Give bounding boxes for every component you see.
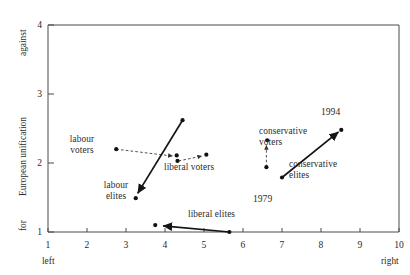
label-year-1979: 1979 — [253, 193, 272, 204]
data-point — [280, 175, 284, 179]
y-axis-high-label: against — [18, 29, 28, 56]
data-point — [264, 165, 268, 169]
chart-container: 123456789101234 against European unifica… — [0, 0, 410, 275]
y-tick-label: 2 — [26, 157, 42, 168]
y-axis-title: European unification — [18, 117, 28, 196]
y-tick-label: 3 — [26, 88, 42, 99]
trajectory-liberal-elites — [163, 226, 229, 232]
annotation-liberal-voters: liberal voters — [164, 162, 214, 173]
data-point — [339, 128, 343, 132]
annotation-conservative-voters: conservative voters — [259, 126, 307, 148]
data-point — [204, 153, 208, 157]
annotation-liberal-elites: liberal elites — [188, 209, 235, 220]
data-point — [227, 230, 231, 234]
y-tick-label: 4 — [26, 19, 42, 30]
data-point — [180, 118, 184, 122]
y-axis-low-label: for — [18, 220, 28, 231]
data-point — [114, 147, 118, 151]
x-tick-label: 10 — [390, 239, 408, 250]
y-tick-label: 1 — [26, 226, 42, 237]
x-tick-label: 1 — [39, 239, 57, 250]
label-year-1994: 1994 — [321, 106, 340, 117]
x-tick-label: 7 — [273, 239, 291, 250]
annotation-conservative-elites: conservative elites — [289, 159, 337, 181]
data-point — [175, 153, 179, 157]
x-tick-label: 3 — [117, 239, 135, 250]
x-tick-label: 8 — [312, 239, 330, 250]
x-tick-label: 5 — [195, 239, 213, 250]
x-axis-high-label: right — [381, 256, 399, 266]
x-tick-label: 9 — [351, 239, 369, 250]
x-tick-label: 4 — [156, 239, 174, 250]
x-axis-low-label: left — [42, 256, 55, 266]
x-tick-label: 6 — [234, 239, 252, 250]
annotation-labour-elites: labour elites — [94, 180, 138, 202]
trajectory-liberal-voters — [179, 156, 202, 161]
data-point — [153, 223, 157, 227]
x-tick-label: 2 — [78, 239, 96, 250]
annotation-labour-voters: labour voters — [59, 134, 105, 156]
